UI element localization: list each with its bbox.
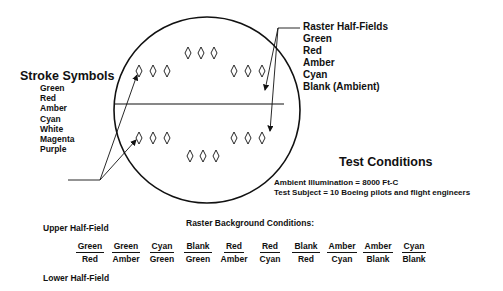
upper-color: Green — [112, 241, 141, 253]
upper-color: Red — [224, 241, 244, 253]
condition-pair-7: BlankRed — [288, 241, 324, 265]
lower-left-diamonds — [136, 132, 170, 144]
stroke-color-white: White — [40, 124, 74, 134]
lower-color: Green — [144, 254, 180, 265]
lower-color: Cyan — [252, 254, 288, 265]
raster-option-cyan: Cyan — [303, 69, 388, 81]
upper-right-diamonds — [231, 65, 265, 77]
raster-background-title: Raster Background Conditions: — [186, 218, 314, 228]
condition-pair-9: AmberBlank — [360, 241, 396, 265]
upper-color: Amber — [363, 241, 394, 253]
lower-right-diamonds — [231, 132, 265, 144]
upper-top-diamonds — [185, 47, 217, 59]
test-subjects: Test Subject = 10 Boeing pilots and flig… — [274, 188, 470, 199]
ambient-illumination: Ambient Illumination = 8000 Ft-C — [274, 178, 398, 189]
raster-option-green: Green — [303, 33, 388, 45]
upper-color: Green — [76, 241, 105, 253]
raster-option-amber: Amber — [303, 57, 388, 69]
stroke-color-purple: Purple — [40, 144, 74, 154]
stroke-color-magenta: Magenta — [40, 134, 74, 144]
condition-pair-1: GreenRed — [72, 241, 108, 265]
condition-pair-4: BlankGreen — [180, 241, 216, 265]
lower-color: Red — [72, 254, 108, 265]
stroke-color-amber: Amber — [40, 103, 74, 113]
condition-pair-8: AmberCyan — [324, 241, 360, 265]
upper-left-diamonds — [136, 65, 170, 77]
stroke-symbol-leaders — [68, 75, 137, 180]
raster-option-red: Red — [303, 45, 388, 57]
lower-color: Blank — [396, 254, 432, 265]
lower-color: Green — [180, 254, 216, 265]
lower-color: Blank — [360, 254, 396, 265]
raster-condition-pairs: GreenRed GreenAmber CyanGreen BlankGreen… — [72, 241, 432, 265]
condition-pair-3: CyanGreen — [144, 241, 180, 265]
upper-color: Red — [260, 241, 280, 253]
upper-color: Cyan — [402, 241, 427, 253]
condition-pair-10: CyanBlank — [396, 241, 432, 265]
lower-color: Cyan — [324, 254, 360, 265]
display-circle — [114, 17, 300, 203]
upper-half-field-label: Upper Half-Field — [43, 223, 109, 233]
stroke-color-green: Green — [40, 83, 74, 93]
upper-color: Cyan — [150, 241, 175, 253]
lower-half-field-label: Lower Half-Field — [43, 273, 109, 283]
lower-color: Amber — [108, 254, 144, 265]
condition-pair-2: GreenAmber — [108, 241, 144, 265]
raster-half-fields-title: Raster Half-Fields — [303, 21, 388, 33]
lower-bottom-diamonds — [187, 150, 219, 162]
stroke-color-red: Red — [40, 93, 74, 103]
test-conditions-title: Test Conditions — [339, 155, 433, 169]
upper-color: Amber — [327, 241, 358, 253]
lower-color: Amber — [216, 254, 252, 265]
condition-pair-6: RedCyan — [252, 241, 288, 265]
upper-color: Blank — [184, 241, 211, 253]
condition-pair-5: RedAmber — [216, 241, 252, 265]
raster-option-blank: Blank (Ambient) — [303, 81, 388, 93]
stroke-symbols-list: Green Red Amber Cyan White Magenta Purpl… — [40, 83, 74, 154]
upper-color: Blank — [292, 241, 319, 253]
raster-half-fields-list: Raster Half-Fields Green Red Amber Cyan … — [303, 21, 388, 93]
stroke-symbols-title: Stroke Symbols — [20, 69, 114, 83]
lower-color: Red — [288, 254, 324, 265]
stroke-color-cyan: Cyan — [40, 114, 74, 124]
